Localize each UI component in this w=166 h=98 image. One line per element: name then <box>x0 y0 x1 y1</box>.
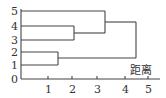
y-tick-4: 4 <box>11 20 18 33</box>
y-tick-3: 3 <box>11 34 18 47</box>
x-tick-5: 5 <box>145 83 152 96</box>
x-tick-1: 1 <box>45 83 52 96</box>
x-tick-3: 3 <box>94 83 101 96</box>
y-tick-0: 0 <box>11 73 18 86</box>
x-tick-4: 4 <box>122 83 129 96</box>
y-tick-2: 2 <box>11 46 18 59</box>
y-tick-5: 5 <box>11 5 18 18</box>
x-axis-title: 距离 <box>130 63 152 77</box>
dendrogram: 0 1 2 3 4 5 1 2 3 4 5 距离 <box>0 0 166 98</box>
x-tick-2: 2 <box>69 83 76 96</box>
y-tick-1: 1 <box>11 59 18 72</box>
